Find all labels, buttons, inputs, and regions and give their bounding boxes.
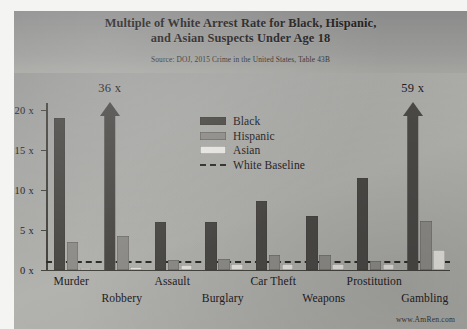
arrow-value-label: 36 x — [98, 81, 121, 96]
bar-asian — [181, 265, 193, 270]
chart-title-line-1: Multiple of White Arrest Rate for Black,… — [14, 16, 467, 31]
x-axis-label-burglary: Burglary — [202, 292, 244, 305]
screenshot-root: Multiple of White Arrest Rate for Black,… — [0, 0, 467, 329]
x-axis-label-prostitution: Prostitution — [347, 275, 402, 288]
x-axis-label-weapons: Weapons — [302, 292, 345, 305]
bar-hispanic — [67, 242, 79, 270]
bar-asian — [332, 264, 344, 270]
x-axis-label-car-theft: Car Theft — [251, 275, 296, 288]
bar-black — [256, 201, 268, 270]
bar-black — [205, 222, 217, 270]
bar-asian — [433, 250, 445, 270]
y-axis-tick-label: 20 x — [14, 105, 34, 116]
chart-title: Multiple of White Arrest Rate for Black,… — [14, 16, 467, 46]
legend-swatch-baseline-icon — [200, 164, 226, 166]
bar-group — [349, 94, 400, 270]
arrow-head-icon — [403, 102, 423, 116]
arrow-value-label: 59 x — [401, 81, 424, 96]
bar-group — [46, 94, 97, 270]
bar-black — [155, 222, 167, 270]
x-axis-label-robbery: Robbery — [101, 292, 142, 305]
bar-overflow-arrow: 59 x — [407, 102, 419, 270]
legend-label-white-baseline: White Baseline — [233, 159, 305, 171]
x-axis-label-murder: Murder — [54, 275, 89, 288]
bar-black — [357, 178, 369, 270]
chart-subtitle: Source: DOJ, 2015 Crime in the United St… — [14, 55, 467, 64]
y-axis-tick-label: 5 x — [20, 225, 34, 236]
x-axis-label-gambling: Gambling — [401, 292, 448, 305]
bar-group — [299, 94, 350, 270]
y-axis-tick-label: 10 x — [14, 185, 34, 196]
legend-item-white-baseline: White Baseline — [200, 158, 305, 173]
arrow-head-icon — [100, 102, 120, 116]
legend-item-hispanic: Hispanic — [200, 129, 305, 144]
chart-photo-panel: Multiple of White Arrest Rate for Black,… — [14, 11, 467, 329]
chart-title-line-2: and Asian Suspects Under Age 18 — [14, 31, 467, 46]
bar-group: 36 x — [97, 94, 148, 270]
chart-legend: Black Hispanic Asian White Baseline — [200, 114, 305, 172]
legend-item-black: Black — [200, 114, 305, 129]
arrow-shaft — [104, 116, 116, 270]
y-axis-tick-label: 0 x — [20, 265, 34, 276]
legend-label-asian: Asian — [233, 144, 260, 156]
x-axis-label-assault: Assault — [155, 275, 190, 288]
bar-asian — [130, 267, 142, 270]
legend-label-black: Black — [233, 115, 260, 127]
bar-asian — [383, 264, 395, 270]
bar-hispanic — [370, 261, 382, 270]
legend-swatch-hispanic-icon — [200, 132, 226, 140]
bar-hispanic — [117, 236, 129, 270]
bar-hispanic — [269, 255, 281, 270]
bar-hispanic — [218, 259, 230, 270]
bar-asian — [80, 268, 92, 270]
bar-hispanic — [420, 221, 432, 270]
bar-black — [306, 216, 318, 270]
bar-overflow-arrow: 36 x — [104, 102, 116, 270]
x-axis-labels: MurderRobberyAssaultBurglaryCar TheftWea… — [46, 273, 450, 315]
bar-asian — [282, 264, 294, 270]
legend-swatch-asian-icon — [200, 146, 226, 154]
legend-swatch-black-icon — [200, 117, 226, 125]
legend-item-asian: Asian — [200, 143, 305, 158]
bar-group — [147, 94, 198, 270]
watermark: www.AmRen.com — [396, 315, 455, 324]
bar-black — [54, 118, 66, 270]
arrow-shaft — [407, 116, 419, 270]
bar-hispanic — [319, 255, 331, 270]
bar-group: 59 x — [400, 94, 451, 270]
legend-label-hispanic: Hispanic — [233, 130, 275, 142]
y-axis-tick-label: 15 x — [14, 145, 34, 156]
bar-hispanic — [168, 260, 180, 270]
bar-asian — [231, 264, 243, 270]
